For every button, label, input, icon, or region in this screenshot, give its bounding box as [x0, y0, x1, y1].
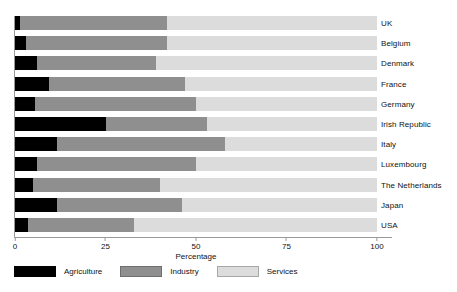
chart-legend: AgricultureIndustryServices: [14, 263, 354, 279]
legend-label-industry: Industry: [170, 267, 198, 276]
bar-row-denmark: Denmark: [15, 56, 377, 70]
plot-area: UKBelgiumDenmarkFranceGermanyIrish Repub…: [15, 16, 377, 232]
bar-segment-agriculture: [15, 218, 28, 232]
bar-segment-services: [196, 97, 377, 111]
bar-segment-agriculture: [15, 137, 57, 151]
bar-label-uk: UK: [381, 19, 392, 28]
bar-label-belgium: Belgium: [381, 39, 411, 48]
swatch-agriculture: [14, 266, 56, 277]
bar-segment-industry: [57, 137, 225, 151]
x-tick-label: 100: [370, 242, 383, 251]
x-tick-label: 75: [282, 242, 291, 251]
bar-segment-services: [134, 218, 377, 232]
bar-segment-services: [167, 36, 377, 50]
bar-segment-industry: [106, 117, 207, 131]
bar-segment-services: [160, 178, 377, 192]
bar-rows: UKBelgiumDenmarkFranceGermanyIrish Repub…: [15, 16, 377, 232]
bar-segment-agriculture: [15, 198, 57, 212]
bar-label-france: France: [381, 79, 407, 88]
bar-segment-agriculture: [15, 97, 35, 111]
bar-label-italy: Italy: [381, 140, 396, 149]
x-tick-mark: [14, 238, 15, 241]
bar-label-luxembourg: Luxembourg: [381, 160, 426, 169]
legend-label-services: Services: [267, 267, 298, 276]
bar-segment-services: [167, 16, 377, 30]
bar-segment-agriculture: [15, 56, 37, 70]
x-tick-label: 50: [192, 242, 201, 251]
x-tick-0: 0: [13, 238, 17, 251]
legend-item-services[interactable]: Services: [217, 266, 298, 277]
bar-segment-services: [207, 117, 377, 131]
bar-row-japan: Japan: [15, 198, 377, 212]
x-axis-ticks: 0255075100: [15, 238, 377, 252]
x-tick-label: 25: [101, 242, 110, 251]
swatch-services: [217, 266, 259, 277]
bar-segment-agriculture: [15, 157, 37, 171]
bar-segment-agriculture: [15, 77, 49, 91]
legend-item-industry[interactable]: Industry: [120, 266, 198, 277]
legend-item-agriculture[interactable]: Agriculture: [14, 266, 102, 277]
bar-segment-industry: [37, 56, 156, 70]
bar-segment-industry: [57, 198, 182, 212]
bar-segment-agriculture: [15, 36, 26, 50]
x-tick-100: 100: [370, 238, 383, 251]
x-tick-mark: [286, 238, 287, 241]
bar-row-the-netherlands: The Netherlands: [15, 178, 377, 192]
bar-label-usa: USA: [381, 220, 398, 229]
x-tick-mark: [376, 238, 377, 241]
bar-row-germany: Germany: [15, 97, 377, 111]
bar-row-belgium: Belgium: [15, 36, 377, 50]
bar-segment-agriculture: [15, 117, 106, 131]
bar-segment-industry: [20, 16, 167, 30]
bar-label-germany: Germany: [381, 99, 415, 108]
bar-segment-industry: [26, 36, 167, 50]
bar-segment-industry: [49, 77, 185, 91]
x-tick-label: 0: [13, 242, 17, 251]
x-tick-mark: [105, 238, 106, 241]
bar-segment-services: [182, 198, 377, 212]
bar-row-luxembourg: Luxembourg: [15, 157, 377, 171]
bar-segment-industry: [35, 97, 196, 111]
stacked-bar-chart: UKBelgiumDenmarkFranceGermanyIrish Repub…: [0, 0, 457, 292]
x-tick-25: 25: [101, 238, 110, 251]
x-tick-75: 75: [282, 238, 291, 251]
bar-segment-industry: [37, 157, 196, 171]
x-tick-50: 50: [192, 238, 201, 251]
bar-segment-services: [225, 137, 377, 151]
bar-row-uk: UK: [15, 16, 377, 30]
bar-segment-industry: [28, 218, 135, 232]
bar-segment-industry: [33, 178, 160, 192]
bar-row-italy: Italy: [15, 137, 377, 151]
bar-row-france: France: [15, 77, 377, 91]
bar-segment-agriculture: [15, 178, 33, 192]
bar-segment-services: [156, 56, 377, 70]
bar-label-the-netherlands: The Netherlands: [381, 180, 442, 189]
bar-segment-services: [185, 77, 377, 91]
bar-label-denmark: Denmark: [381, 59, 414, 68]
bar-row-usa: USA: [15, 218, 377, 232]
bar-label-japan: Japan: [381, 200, 403, 209]
legend-label-agriculture: Agriculture: [64, 267, 102, 276]
x-tick-mark: [196, 238, 197, 241]
bar-label-irish-republic: Irish Republic: [381, 119, 431, 128]
x-axis-title: Percentage: [15, 252, 377, 261]
bar-row-irish-republic: Irish Republic: [15, 117, 377, 131]
swatch-industry: [120, 266, 162, 277]
bar-segment-services: [196, 157, 377, 171]
